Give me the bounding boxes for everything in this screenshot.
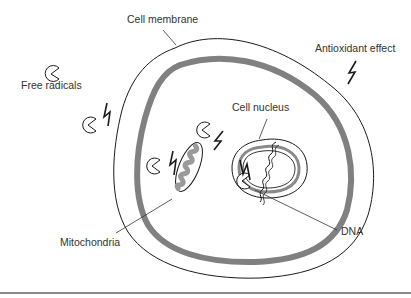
- mitochondria-label: Mitochondria: [60, 236, 120, 248]
- free-radicals-label: Free radicals: [21, 79, 82, 91]
- lightning-bolt-icon: [104, 103, 110, 126]
- mitochondria-pointer: [116, 199, 172, 233]
- free-radical-pacman-icon: [147, 158, 160, 174]
- lightning-bolt-icon: [348, 61, 356, 84]
- free-radical-pacman-icon: [83, 117, 96, 133]
- cell-nucleus-pointer: [259, 119, 267, 139]
- cell-diagram: Cell membrane Antioxidant effect Free ra…: [0, 0, 411, 298]
- cell-membrane-label: Cell membrane: [127, 13, 198, 25]
- cell-nucleus-label: Cell nucleus: [232, 101, 289, 113]
- dna-label: DNA: [341, 225, 363, 237]
- cell-membrane-pointer: [163, 30, 176, 45]
- bottom-rule: [0, 292, 411, 294]
- lightning-bolt-icon: [214, 131, 223, 150]
- free-radical-pacman-icon: [197, 122, 210, 138]
- antioxidant-effect-label: Antioxidant effect: [315, 42, 395, 54]
- lightning-bolt-icon: [170, 151, 176, 175]
- dna-pointer: [255, 190, 337, 230]
